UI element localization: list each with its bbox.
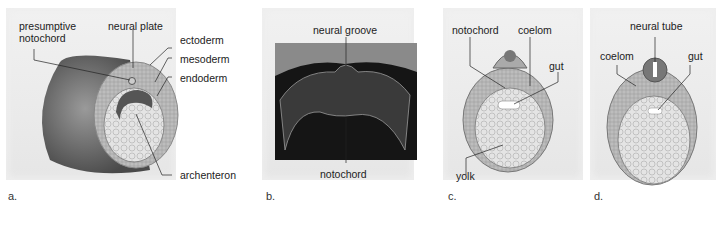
label-mesoderm: mesoderm [180, 53, 230, 65]
label-endoderm: endoderm [180, 72, 227, 84]
label-gut-c: gut [549, 60, 564, 72]
label-coelom-d: coelom [600, 50, 634, 62]
label-neural-plate: neural plate [108, 20, 163, 32]
label-coelom-c: coelom [518, 24, 552, 36]
caption-a: a. [8, 190, 17, 202]
label-presumptive-notochord-1: presumptive [19, 20, 76, 32]
caption-c: c. [448, 190, 457, 202]
panel-d-embryo [607, 58, 697, 185]
caption-d: d. [594, 190, 603, 202]
label-yolk: yolk [456, 170, 475, 182]
caption-b: b. [266, 190, 275, 202]
label-gut-d: gut [688, 50, 703, 62]
label-neural-tube: neural tube [630, 20, 683, 32]
label-ectoderm: ectoderm [180, 34, 224, 46]
label-presumptive-notochord-2: notochord [19, 32, 66, 44]
label-notochord-c: notochord [452, 24, 499, 36]
label-neural-groove: neural groove [313, 24, 377, 36]
label-notochord-b: notochord [320, 168, 367, 180]
panel-c-embryo [463, 50, 553, 172]
panel-a-embryo [42, 55, 178, 173]
label-archenteron: archenteron [180, 169, 236, 181]
